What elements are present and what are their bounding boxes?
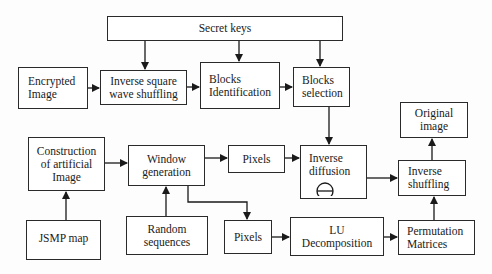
node-label: Random sequences <box>144 223 191 249</box>
node-inverse-shuffling: Inverse shuffling <box>398 160 466 196</box>
node-inverse-diffusion: Inverse diffusion <box>300 145 367 199</box>
node-secret-keys: Secret keys <box>107 16 343 41</box>
node-label: Encrypted Image <box>28 75 75 101</box>
node-encrypted-image: Encrypted Image <box>18 67 88 109</box>
node-label: Permutation Matrices <box>407 225 463 251</box>
circle-minus-icon <box>315 182 335 196</box>
node-pixels-top: Pixels <box>228 145 285 173</box>
node-label: Blocks Identification <box>209 73 271 99</box>
node-label: Blocks selection <box>302 74 343 100</box>
arrow-window-to-pixels-bottom <box>188 186 247 219</box>
node-label: Inverse shuffling <box>408 165 449 191</box>
node-lu-decomposition: LU Decomposition <box>290 217 384 256</box>
node-pixels-bottom: Pixels <box>224 220 272 254</box>
node-label: JSMP map <box>39 232 89 245</box>
node-inverse-square-wave-shuffling: Inverse square wave shuffling <box>100 70 187 105</box>
node-permutation-matrices: Permutation Matrices <box>398 220 475 255</box>
node-construction-artificial-image: Construction of artificial Image <box>28 137 105 191</box>
node-label: Pixels <box>242 153 270 166</box>
node-label: Window generation <box>142 153 191 179</box>
node-blocks-identification: Blocks Identification <box>200 62 280 109</box>
diagram-canvas: Secret keys Encrypted Image Inverse squa… <box>0 0 492 274</box>
node-label: LU Decomposition <box>302 224 372 250</box>
node-blocks-selection: Blocks selection <box>293 67 350 107</box>
node-jsmp-map: JSMP map <box>26 220 101 260</box>
node-random-sequences: Random sequences <box>126 216 208 255</box>
node-label: Pixels <box>234 231 262 244</box>
node-label: Secret keys <box>199 22 252 35</box>
node-label: Original image <box>415 107 453 133</box>
node-label: Inverse diffusion <box>309 152 350 178</box>
node-original-image: Original image <box>400 102 468 138</box>
node-window-generation: Window generation <box>128 145 205 186</box>
node-label: Construction of artificial Image <box>37 145 96 184</box>
node-label: Inverse square wave shuffling <box>109 75 177 101</box>
